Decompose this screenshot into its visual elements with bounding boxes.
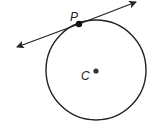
center-point-c [93, 68, 98, 73]
center-label: C [81, 69, 90, 83]
tangent-line-left [17, 24, 79, 47]
point-p-label: P [70, 10, 78, 24]
tangent-diagram: P C [0, 0, 157, 129]
